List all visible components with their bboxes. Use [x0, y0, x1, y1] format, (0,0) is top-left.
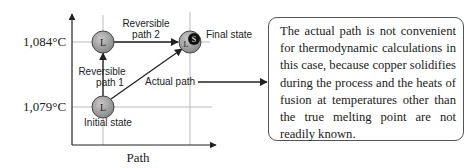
node-intermediate: L: [92, 31, 114, 53]
actual-path-label: Actual path: [145, 76, 195, 87]
svg-text:L: L: [100, 37, 106, 48]
reversible-path-2-label-line2: path 2: [132, 29, 160, 40]
svg-text:L: L: [184, 40, 189, 49]
thermodynamic-path-diagram: L L L S 1,084°C 1,079°C Path Reversible …: [0, 0, 466, 168]
node-final: L S: [179, 31, 201, 53]
final-state-label: Final state: [206, 29, 253, 40]
callout-text: The actual path is not convenient for th…: [280, 24, 456, 141]
node-initial: L: [92, 96, 114, 118]
reversible-path-1-label-line2: path 1: [96, 77, 124, 88]
reversible-path-2-label-line1: Reversible: [122, 18, 170, 29]
x-axis-label: Path: [126, 150, 150, 165]
y-tick-1084: 1,084°C: [23, 34, 66, 49]
svg-text:S: S: [192, 35, 196, 44]
initial-state-label: Initial state: [84, 117, 132, 128]
svg-text:L: L: [100, 102, 106, 113]
callout-box: The actual path is not convenient for th…: [268, 17, 464, 141]
y-tick-1079: 1,079°C: [23, 99, 66, 114]
reversible-path-1-label-line1: Reversible: [78, 66, 126, 77]
